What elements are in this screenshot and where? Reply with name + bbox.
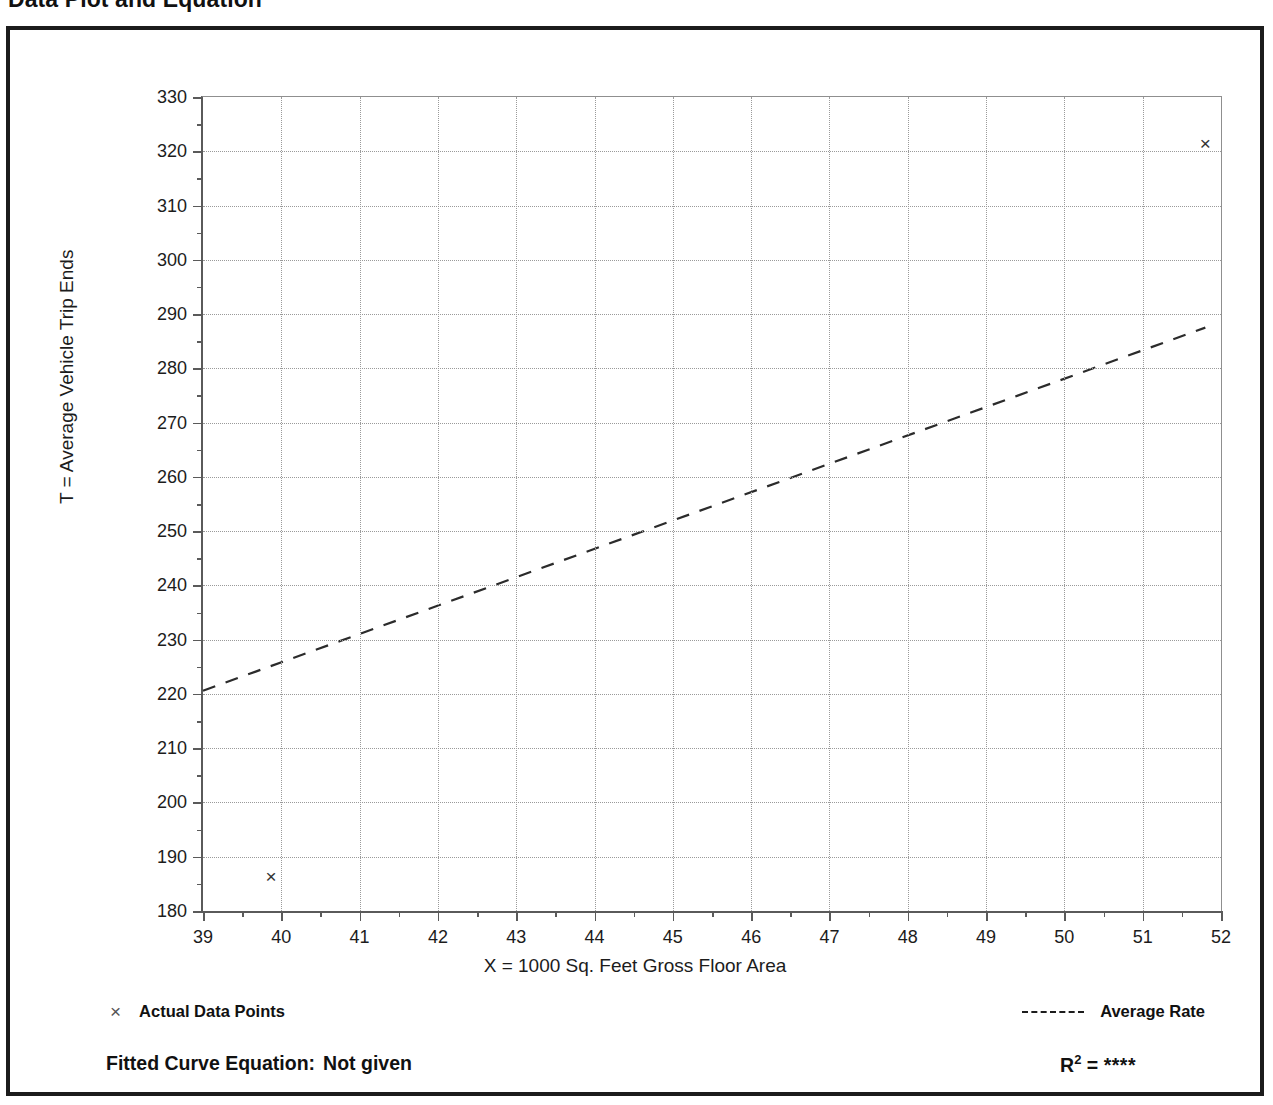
y-axis-tick — [193, 368, 203, 370]
gridline-vertical — [1064, 97, 1065, 911]
gridline-vertical — [829, 97, 830, 911]
y-axis-minor-tick — [197, 124, 203, 126]
x-axis-tick-label: 52 — [1211, 927, 1231, 948]
y-axis-minor-tick — [197, 395, 203, 397]
y-axis-tick — [193, 911, 203, 913]
average-rate-trendline — [203, 328, 1205, 691]
y-axis-tick-label: 290 — [157, 304, 187, 325]
x-axis-minor-tick — [555, 911, 557, 917]
x-axis-minor-tick — [242, 911, 244, 917]
legend-label-data-points: Actual Data Points — [139, 1002, 285, 1021]
x-axis-tick-label: 49 — [976, 927, 996, 948]
gridline-horizontal — [203, 585, 1221, 586]
x-axis-tick — [1221, 911, 1223, 921]
y-axis-tick-label: 190 — [157, 846, 187, 867]
y-axis-minor-tick — [197, 450, 203, 452]
gridline-vertical — [360, 97, 361, 911]
chart-page: Data Plot and Equation T = Average Vehic… — [0, 0, 1273, 1105]
x-axis-tick — [360, 911, 362, 921]
x-axis-tick — [281, 911, 283, 921]
x-axis-tick — [829, 911, 831, 921]
plot-area: 1801902002102202302402502602702802903003… — [201, 96, 1222, 913]
x-axis-tick-label: 46 — [741, 927, 761, 948]
y-axis-minor-tick — [197, 558, 203, 560]
y-axis-tick — [193, 206, 203, 208]
gridline-horizontal — [203, 260, 1221, 261]
y-axis-tick — [193, 314, 203, 316]
r-squared-exponent: 2 — [1074, 1052, 1081, 1067]
gridline-vertical — [986, 97, 987, 911]
y-axis-minor-tick — [197, 775, 203, 777]
y-axis-tick-label: 240 — [157, 575, 187, 596]
gridline-vertical — [516, 97, 517, 911]
gridline-horizontal — [203, 640, 1221, 641]
gridline-horizontal — [203, 531, 1221, 532]
x-axis-minor-tick — [477, 911, 479, 917]
x-axis-tick-label: 51 — [1133, 927, 1153, 948]
legend-item-data-points: × Actual Data Points — [110, 1002, 285, 1021]
x-axis-minor-tick — [320, 911, 322, 917]
gridline-vertical — [908, 97, 909, 911]
gridline-vertical — [595, 97, 596, 911]
x-axis-tick — [1143, 911, 1145, 921]
gridline-vertical — [751, 97, 752, 911]
data-point-marker — [1196, 134, 1215, 153]
r-squared-label: R — [1060, 1054, 1074, 1076]
y-axis-tick — [193, 802, 203, 804]
y-axis-tick-label: 300 — [157, 249, 187, 270]
data-point-marker — [262, 867, 281, 886]
y-axis-tick-label: 270 — [157, 412, 187, 433]
y-axis-title: T = Average Vehicle Trip Ends — [56, 250, 78, 504]
x-axis-tick — [673, 911, 675, 921]
page-title: Data Plot and Equation — [8, 0, 262, 13]
legend-label-average-rate: Average Rate — [1100, 1002, 1205, 1021]
x-axis-minor-tick — [869, 911, 871, 917]
x-axis-tick-label: 48 — [898, 927, 918, 948]
x-axis-tick — [986, 911, 988, 921]
y-axis-tick-label: 330 — [157, 87, 187, 108]
gridline-horizontal — [203, 857, 1221, 858]
x-axis-tick-label: 43 — [506, 927, 526, 948]
y-axis-tick — [193, 477, 203, 479]
x-axis-minor-tick — [790, 911, 792, 917]
y-axis-tick-label: 250 — [157, 521, 187, 542]
x-axis-tick — [203, 911, 205, 921]
fitted-equation-value: Not given — [323, 1052, 412, 1074]
gridline-horizontal — [203, 314, 1221, 315]
x-axis-tick-label: 41 — [350, 927, 370, 948]
x-axis-tick-label: 44 — [585, 927, 605, 948]
y-axis-minor-tick — [197, 341, 203, 343]
chart-legend: × Actual Data Points Average Rate — [10, 1002, 1260, 1028]
fitted-equation-label: Fitted Curve Equation: — [106, 1052, 315, 1074]
legend-item-average-rate: Average Rate — [1022, 1002, 1205, 1021]
gridline-horizontal — [203, 423, 1221, 424]
y-axis-tick-label: 180 — [157, 901, 187, 922]
gridline-horizontal — [203, 206, 1221, 207]
r-squared-equals: = — [1087, 1054, 1098, 1076]
y-axis-minor-tick — [197, 667, 203, 669]
x-axis-tick-label: 40 — [271, 927, 291, 948]
y-axis-tick — [193, 260, 203, 262]
r-squared-number: **** — [1104, 1054, 1136, 1076]
gridline-vertical — [438, 97, 439, 911]
trendline-svg — [203, 97, 1221, 911]
y-axis-tick — [193, 857, 203, 859]
dashed-line-icon — [1022, 1011, 1084, 1013]
x-axis-minor-tick — [712, 911, 714, 917]
fitted-curve-equation: Fitted Curve Equation:Not given — [106, 1052, 412, 1075]
y-axis-tick-label: 260 — [157, 466, 187, 487]
chart-frame: T = Average Vehicle Trip Ends 1801902002… — [6, 26, 1264, 1096]
x-axis-minor-tick — [1182, 911, 1184, 917]
y-axis-minor-tick — [197, 178, 203, 180]
gridline-vertical — [673, 97, 674, 911]
x-axis-tick — [908, 911, 910, 921]
x-axis-tick — [1064, 911, 1066, 921]
y-axis-tick-label: 310 — [157, 195, 187, 216]
x-axis-tick-label: 47 — [819, 927, 839, 948]
y-axis-minor-tick — [197, 613, 203, 615]
gridline-vertical — [1143, 97, 1144, 911]
x-axis-minor-tick — [1104, 911, 1106, 917]
y-axis-minor-tick — [197, 504, 203, 506]
y-axis-tick-label: 230 — [157, 629, 187, 650]
x-axis-tick — [516, 911, 518, 921]
